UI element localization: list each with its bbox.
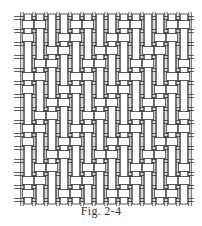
weft-strip-over (130, 20, 141, 28)
weft-strip-over (58, 46, 69, 54)
weft-strip-over (34, 59, 45, 67)
weft-strip-over (22, 124, 33, 132)
weft-strip-over (94, 163, 105, 171)
weft-strip-over (178, 124, 189, 132)
weft-strip-over (82, 59, 93, 67)
weft-strip-over (178, 59, 189, 67)
figure-caption: Fig. 2-4 (0, 204, 202, 219)
weft-strip-over (106, 98, 117, 106)
weft-strip-over (94, 150, 105, 158)
warp-strip (24, 14, 31, 204)
weft-strip-over (46, 46, 57, 54)
warp-strip (180, 14, 187, 204)
weft-strip-over (130, 59, 141, 67)
weft-strip-over (82, 163, 93, 171)
weft-strip-over (178, 20, 189, 28)
weft-strip-over (142, 59, 153, 67)
weft-strip-over (34, 124, 45, 132)
weft-strip-over (106, 189, 117, 197)
warp-strip (120, 14, 127, 204)
weft-strip-over (82, 72, 93, 80)
warp-strip (96, 14, 103, 204)
weft-strip-over (166, 85, 177, 93)
weft-strip-over (106, 85, 117, 93)
weft-strip-over (46, 150, 57, 158)
warp-strip (132, 14, 139, 204)
weft-strip-over (118, 137, 129, 145)
weft-strip-over (22, 189, 33, 197)
weft-strip-over (70, 20, 81, 28)
weft-strip-over (130, 176, 141, 184)
weft-strip-over (154, 98, 165, 106)
weft-strip-over (106, 33, 117, 41)
weft-strip-over (58, 150, 69, 158)
weft-strip-over (178, 72, 189, 80)
warp-strip (72, 14, 79, 204)
weft-strip-over (82, 111, 93, 119)
weft-strip-over (166, 72, 177, 80)
weft-strip-over (22, 137, 33, 145)
weft-strip-over (34, 111, 45, 119)
weft-strip-over (106, 137, 117, 145)
warp-strip (156, 14, 163, 204)
weft-strip-over (58, 137, 69, 145)
weft-strip-over (142, 163, 153, 171)
weft-strip-over (130, 72, 141, 80)
weft-strip-over (130, 111, 141, 119)
weft-strip-over (142, 150, 153, 158)
weft-strip-over (70, 137, 81, 145)
weft-strip-over (94, 98, 105, 106)
weft-strip-over (82, 176, 93, 184)
weft-strip-over (166, 137, 177, 145)
weft-strip-over (70, 72, 81, 80)
weft-strip-over (118, 124, 129, 132)
weft-strip-over (34, 20, 45, 28)
weft-strip-over (70, 124, 81, 132)
weft-strip-over (130, 124, 141, 132)
warp-strip (84, 14, 91, 204)
weft-strip-over (118, 72, 129, 80)
weft-strip-over (94, 111, 105, 119)
weft-strip-over (58, 85, 69, 93)
weft-strip-over (154, 189, 165, 197)
weft-strip-over (22, 85, 33, 93)
weft-strip-over (94, 59, 105, 67)
weft-strip-over (166, 33, 177, 41)
weft-strip-over (178, 176, 189, 184)
weft-strip-over (46, 111, 57, 119)
weft-strip-over (22, 72, 33, 80)
weft-strip-over (142, 46, 153, 54)
weft-strip-over (166, 176, 177, 184)
weave-diagram (0, 0, 202, 226)
weft-strip-over (118, 85, 129, 93)
weft-strip-over (82, 20, 93, 28)
weft-strip-over (46, 59, 57, 67)
weft-strip-over (106, 46, 117, 54)
weft-strip-over (154, 137, 165, 145)
weft-strip-over (154, 33, 165, 41)
weft-strip-over (70, 176, 81, 184)
weft-strip-over (178, 111, 189, 119)
weft-strip-over (154, 46, 165, 54)
weft-strip-over (22, 176, 33, 184)
warp-strip (48, 14, 55, 204)
weft-strip-over (46, 163, 57, 171)
weft-strip-over (166, 20, 177, 28)
weft-strip-over (154, 85, 165, 93)
weft-strip-over (118, 33, 129, 41)
warp-strip (144, 14, 151, 204)
weft-strip-over (46, 98, 57, 106)
weft-strip-over (106, 150, 117, 158)
weft-strip-over (22, 33, 33, 41)
weave-pattern (14, 12, 194, 206)
weft-strip-over (34, 72, 45, 80)
weft-strip-over (154, 150, 165, 158)
warp-strip (168, 14, 175, 204)
weft-strip-over (118, 20, 129, 28)
weft-strip-over (34, 163, 45, 171)
weft-strip-over (166, 124, 177, 132)
weft-strip-over (34, 176, 45, 184)
weft-strip-over (70, 33, 81, 41)
warp-strip (60, 14, 67, 204)
weft-strip-over (70, 85, 81, 93)
